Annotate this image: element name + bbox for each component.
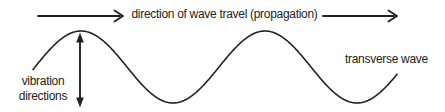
propagation-label: direction of wave travel (propagation): [131, 7, 318, 21]
vibration-label: vibration directions: [14, 74, 72, 104]
propagation-arrow-right-icon: [323, 11, 397, 22]
vibration-label-line1: vibration: [14, 74, 72, 89]
vibration-label-line2: directions: [14, 89, 72, 104]
transverse-wave-diagram: direction of wave travel (propagation) v…: [0, 0, 445, 112]
transverse-wave-label: transverse wave: [345, 52, 428, 66]
propagation-arrow-left-icon: [38, 11, 123, 22]
wave-curve: [33, 31, 397, 103]
vibration-double-arrow-icon: [76, 33, 84, 108]
